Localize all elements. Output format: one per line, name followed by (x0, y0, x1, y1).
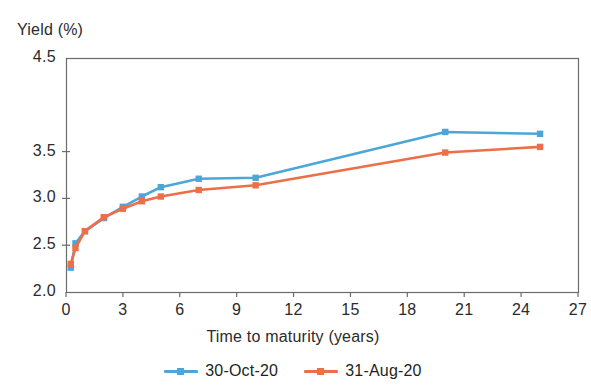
legend-swatch-icon (304, 364, 338, 378)
data-point-marker (120, 206, 126, 212)
y-tick-label: 3.5 (12, 142, 56, 160)
legend-swatch-icon (164, 364, 198, 378)
y-tick-label: 4.5 (12, 48, 56, 66)
x-tick-label: 0 (46, 301, 86, 319)
data-point-marker (196, 176, 202, 182)
data-point-marker (252, 182, 258, 188)
x-tick-label: 18 (387, 301, 427, 319)
data-point-marker (158, 184, 164, 190)
data-point-marker (158, 193, 164, 199)
data-point-marker (101, 214, 107, 220)
x-tick-label: 3 (103, 301, 143, 319)
data-point-marker (82, 228, 88, 234)
y-tick-label: 2.5 (12, 235, 56, 253)
data-point-marker (139, 198, 145, 204)
x-tick-label: 15 (330, 301, 370, 319)
data-point-marker (537, 144, 543, 150)
data-point-marker (442, 149, 448, 155)
y-tick-label: 3.0 (12, 188, 56, 206)
data-point-marker (537, 131, 543, 137)
legend-item[interactable]: 31-Aug-20 (304, 362, 422, 380)
x-tick-label: 6 (160, 301, 200, 319)
x-tick-label: 24 (501, 301, 541, 319)
x-tick-label: 27 (558, 301, 591, 319)
legend-label: 31-Aug-20 (345, 362, 422, 380)
data-point-marker (196, 187, 202, 193)
x-tick-label: 21 (444, 301, 484, 319)
data-point-marker (442, 129, 448, 135)
chart-legend: 30-Oct-2031-Aug-20 (0, 362, 586, 380)
data-point-marker (252, 175, 258, 181)
legend-item[interactable]: 30-Oct-20 (164, 362, 278, 380)
x-tick-label: 9 (217, 301, 257, 319)
legend-label: 30-Oct-20 (205, 362, 278, 380)
data-point-marker (68, 261, 74, 267)
plot-frame (67, 59, 579, 293)
y-tick-label: 2.0 (12, 282, 56, 300)
data-point-marker (72, 245, 78, 251)
x-tick-label: 12 (274, 301, 314, 319)
x-axis-title: Time to maturity (years) (0, 328, 586, 346)
